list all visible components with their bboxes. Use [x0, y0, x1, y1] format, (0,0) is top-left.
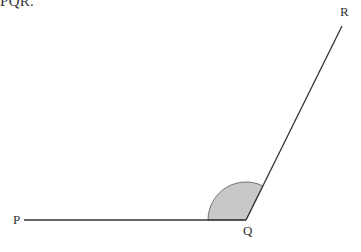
label-p: P [13, 212, 20, 227]
label-r: R [340, 4, 349, 19]
angle-diagram: P Q R [0, 0, 361, 252]
label-q: Q [243, 223, 253, 238]
segment-qr [246, 26, 342, 220]
